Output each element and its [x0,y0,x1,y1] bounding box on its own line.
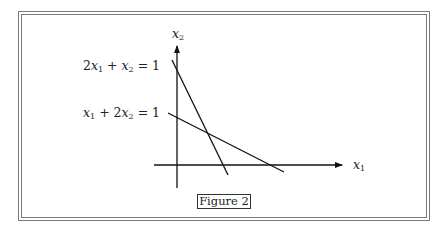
x-axis-label: x1 [353,157,365,173]
equation-label-2: x1 + 2x2 = 1 [83,105,160,121]
constraint-line-2 [168,113,284,172]
y-axis-label: x2 [172,26,184,42]
constraint-line-1 [172,60,228,175]
equation-label-1: 2x1 + x2 = 1 [83,58,160,74]
figure-caption: Figure 2 [197,194,251,209]
